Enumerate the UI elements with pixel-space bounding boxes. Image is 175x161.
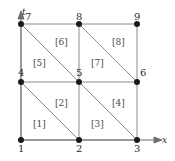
- element-label-5: [5]: [33, 59, 46, 68]
- mesh-edge-diagonal-8-6: [79, 24, 137, 82]
- mesh-node-6: [134, 79, 140, 85]
- mesh-canvas: [0, 0, 175, 161]
- element-label-8: [8]: [112, 38, 125, 47]
- mesh-node-5: [76, 79, 82, 85]
- node-number-label-4: 4: [18, 68, 24, 78]
- element-label-3: [3]: [91, 120, 104, 129]
- node-number-label-3: 3: [134, 144, 140, 154]
- element-label-4: [4]: [112, 99, 125, 108]
- mesh-node-7: [18, 21, 24, 27]
- node-number-label-5: 5: [76, 68, 82, 78]
- node-number-label-6: 6: [140, 68, 146, 78]
- mesh-node-4: [18, 79, 24, 85]
- node-number-label-2: 2: [76, 144, 82, 154]
- element-label-2: [2]: [55, 99, 68, 108]
- t-axis-label: t: [22, 8, 26, 17]
- x-axis-label: x: [162, 136, 167, 145]
- node-number-label-8: 8: [76, 12, 82, 22]
- element-label-7: [7]: [91, 59, 104, 68]
- node-number-label-9: 9: [134, 12, 140, 22]
- x-axis-arrowhead: [154, 137, 162, 143]
- mesh-figure: 123456789 [1][2][3][4][5][6][7][8] t x: [0, 0, 175, 161]
- element-label-6: [6]: [55, 38, 68, 47]
- mesh-edge-diagonal-4-2: [21, 82, 79, 140]
- mesh-edge-diagonal-7-5: [21, 24, 79, 82]
- mesh-edge-diagonal-5-3: [79, 82, 137, 140]
- node-number-label-1: 1: [18, 144, 24, 154]
- element-label-1: [1]: [33, 120, 46, 129]
